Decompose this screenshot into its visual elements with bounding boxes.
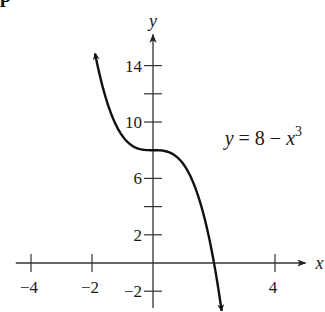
y-tick-label: 6: [134, 169, 143, 188]
x-axis-ticks: −4−24: [20, 254, 278, 297]
x-tick-label: −4: [20, 278, 39, 297]
function-curve: [95, 53, 222, 310]
equation-annotation: y = 8 − x3: [223, 124, 302, 150]
y-axis-ticks: 141062−2: [124, 57, 162, 302]
x-axis-label: x: [315, 253, 324, 273]
y-tick-label: 10: [125, 113, 142, 132]
cubic-function-graph: −4−24 141062−2 x y y = 8 − x3: [0, 0, 325, 312]
y-tick-label: −2: [124, 282, 142, 301]
y-axis-label: y: [147, 11, 157, 31]
x-tick-label: 4: [269, 278, 278, 297]
y-tick-label: 14: [125, 57, 143, 76]
x-tick-label: −2: [81, 278, 99, 297]
y-tick-label: 2: [134, 226, 143, 245]
